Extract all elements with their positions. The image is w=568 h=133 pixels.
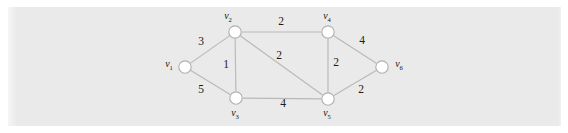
edges-group [191, 32, 377, 99]
vertex-label-v1: v1 [165, 58, 173, 70]
graph-diagram: 351224242 v1v2v3v4v5v6 [0, 0, 568, 133]
graph-edge-v5-v6 [334, 70, 376, 95]
graph-edge-v2-v5 [241, 36, 323, 95]
graph-node-v2 [229, 26, 241, 38]
edge-weight-v2-v4: 2 [278, 15, 284, 27]
graph-edge-v1-v3 [191, 71, 230, 95]
graph-node-v5 [322, 93, 334, 105]
edge-weight-v4-v6: 4 [359, 34, 365, 46]
edge-weight-v2-v5: 2 [276, 49, 282, 61]
edge-weight-v5-v6: 2 [358, 83, 364, 95]
graph-node-v4 [322, 26, 334, 38]
edge-weight-v3-v5: 4 [280, 97, 286, 109]
edge-weight-v4-v5: 2 [333, 56, 339, 68]
vertex-label-v3: v3 [231, 107, 239, 119]
graph-edge-v2-v3 [235, 39, 236, 91]
vertex-label-v4: v4 [323, 10, 331, 22]
graph-node-v1 [179, 61, 191, 73]
edge-weight-v1-v2: 3 [198, 35, 204, 47]
vertex-label-v5: v5 [323, 107, 331, 119]
edge-weight-v1-v3: 5 [198, 83, 204, 95]
vertex-label-v6: v6 [395, 58, 403, 70]
nodes-group [179, 26, 388, 105]
graph-node-v6 [376, 61, 388, 73]
graph-edge-v4-v6 [334, 36, 377, 64]
edge-weight-labels-group: 351224242 [198, 15, 365, 109]
edge-weight-v2-v3: 1 [223, 58, 229, 70]
figure-root: 351224242 v1v2v3v4v5v6 [0, 0, 568, 133]
graph-node-v3 [230, 92, 242, 104]
vertex-label-v2: v2 [224, 10, 232, 22]
